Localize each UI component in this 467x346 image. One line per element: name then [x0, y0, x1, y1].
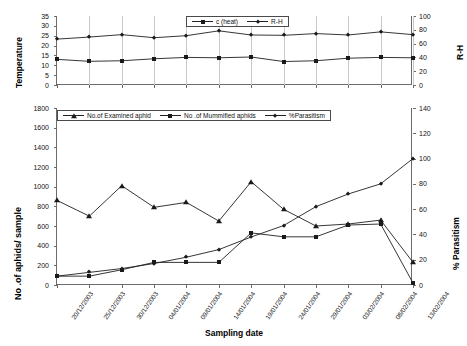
x-tick-mark [186, 85, 187, 88]
x-tick-mark [122, 285, 123, 288]
x-tick-mark [284, 85, 285, 88]
x-tick-mark [251, 285, 252, 288]
y2-tick-mark [413, 184, 416, 185]
aphids-legend: No.of Examined aphidNo .of Mummified aph… [57, 110, 331, 121]
x-tick-label: 30/12/2003 [135, 290, 159, 321]
y-tick-label: 10 [41, 62, 49, 69]
x-tick-mark [57, 85, 58, 88]
square-marker [168, 114, 172, 118]
x-tick-mark [154, 285, 155, 288]
x-tick-mark [186, 285, 187, 288]
x-tick-mark [316, 285, 317, 288]
x-gridline [413, 16, 414, 85]
x-tick-label: 14/01/2004 [232, 290, 256, 321]
y-tick-label: 1600 [33, 124, 49, 131]
legend-label: No.of Examined aphid [87, 112, 151, 119]
x-tick-mark [348, 285, 349, 288]
y-tick-label: 1400 [33, 144, 49, 151]
y-tick-label: 0 [45, 282, 49, 289]
x-tick-mark [316, 85, 317, 88]
y-tick-label: 5 [45, 72, 49, 79]
x-tick-label: 03/02/2004 [361, 290, 385, 321]
x-tick-mark [89, 85, 90, 88]
x-tick-label: 29/01/2004 [329, 290, 353, 321]
y-tick-label: 25 [41, 32, 49, 39]
x-tick-label: 13/02/2004 [426, 290, 450, 321]
y2-tick-mark [413, 133, 416, 134]
y2-tick-label: 80 [419, 180, 427, 187]
y-tick-label: 30 [41, 22, 49, 29]
y-tick-label: 20 [41, 42, 49, 49]
x-tick-label: 24/01/2004 [296, 290, 320, 321]
figure-root: Temperature R-H 051015202530350204060801… [0, 0, 467, 346]
aphids-plot-area: 0200400600800100012001400160018000204060… [56, 108, 412, 285]
diamond-marker [255, 19, 260, 24]
y-tick-label: 1200 [33, 164, 49, 171]
y2-tick-label: 40 [419, 231, 427, 238]
aphids-chart: No .of aphids/ sample % Parasitism 02004… [0, 100, 467, 346]
x-tick-label: 25/12/2003 [102, 290, 126, 321]
legend-label: No .of Mummified aphids [184, 112, 256, 119]
x-tick-mark [219, 85, 220, 88]
y-tick-label: 15 [41, 52, 49, 59]
y2-tick-label: 20 [419, 256, 427, 263]
y-tick-label: 400 [37, 242, 49, 249]
x-axis-title: Sampling date [205, 328, 263, 338]
x-tick-mark [251, 85, 252, 88]
series-line-2 [57, 108, 411, 284]
square-marker [201, 20, 205, 24]
legend-swatch [63, 115, 84, 116]
diamond-marker [411, 156, 416, 161]
legend-item-0[interactable]: c (heat) [192, 18, 238, 25]
legend-item-1[interactable]: R-H [247, 18, 283, 25]
y-tick-label: 200 [37, 262, 49, 269]
aphids-y-axis-title: No .of aphids/ sample [13, 207, 23, 300]
legend-label: c (heat) [216, 18, 238, 25]
y2-tick-mark [413, 209, 416, 210]
x-tick-mark [381, 285, 382, 288]
legend-swatch [247, 21, 268, 22]
legend-item-1[interactable]: No .of Mummified aphids [160, 112, 256, 119]
y-tick-label: 800 [37, 203, 49, 210]
diamond-marker [273, 113, 278, 118]
diamond-marker [411, 32, 416, 37]
square-marker [411, 281, 415, 285]
triangle-marker [71, 113, 77, 118]
legend-label: R-H [271, 18, 283, 25]
x-tick-label: 08/02/2004 [394, 290, 418, 321]
x-tick-mark [219, 285, 220, 288]
x-tick-mark [122, 85, 123, 88]
y2-tick-label: 40 [419, 54, 427, 61]
weather-chart: Temperature R-H 051015202530350204060801… [0, 0, 467, 100]
y2-tick-label: 20 [419, 68, 427, 75]
y2-tick-label: 80 [419, 26, 427, 33]
x-tick-mark [413, 85, 414, 88]
y2-tick-label: 100 [419, 13, 431, 20]
y2-tick-mark [413, 234, 416, 235]
legend-label: %Parasitism [289, 112, 325, 119]
x-tick-label: 04/01/2004 [167, 290, 191, 321]
x-tick-mark [381, 85, 382, 88]
y-tick-label: 0 [45, 82, 49, 89]
legend-item-0[interactable]: No.of Examined aphid [63, 112, 151, 119]
weather-y-axis-title: Temperature [14, 37, 24, 88]
legend-item-2[interactable]: %Parasitism [265, 112, 325, 119]
y2-tick-mark [413, 108, 416, 109]
x-tick-label: 19/01/2004 [264, 290, 288, 321]
y-tick-label: 35 [41, 13, 49, 20]
weather-y2-axis-title: R-H [455, 45, 465, 60]
legend-swatch [160, 115, 181, 116]
y2-tick-label: 120 [419, 130, 431, 137]
x-tick-mark [89, 285, 90, 288]
y-tick-label: 1000 [33, 183, 49, 190]
square-marker [411, 56, 415, 60]
legend-swatch [192, 21, 213, 22]
aphids-y2-axis-title: % Parasitism [451, 217, 461, 270]
y-tick-label: 600 [37, 223, 49, 230]
y2-tick-label: 60 [419, 206, 427, 213]
x-tick-mark [348, 85, 349, 88]
y2-tick-label: 60 [419, 40, 427, 47]
y2-tick-label: 100 [419, 155, 431, 162]
y2-tick-label: 140 [419, 105, 431, 112]
y2-tick-label: 0 [419, 282, 423, 289]
